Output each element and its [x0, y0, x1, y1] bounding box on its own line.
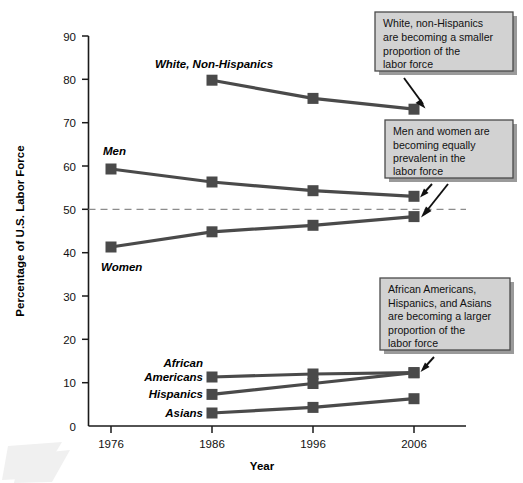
y-tick-80: 80: [63, 74, 76, 86]
series-white-non-hispanics: [207, 75, 420, 115]
annotation-line: labor force: [383, 58, 433, 70]
data-point: [207, 226, 218, 237]
y-axis-tick-labels: 90 80 70 60 50 40 30 20 10 0: [63, 31, 76, 433]
x-tick-1996: 1996: [300, 438, 326, 450]
annotation-line: becoming equally: [393, 139, 476, 151]
annotation-line: labor force: [388, 337, 438, 349]
annotation-line: Men and women are: [393, 125, 490, 137]
data-point: [409, 211, 420, 222]
y-tick-50: 50: [63, 204, 76, 216]
data-point: [409, 367, 420, 378]
series-label-women: Women: [101, 261, 142, 273]
y-axis: [82, 36, 89, 426]
data-point: [207, 372, 218, 383]
y-tick-90: 90: [63, 31, 76, 43]
data-point: [308, 93, 319, 104]
series-asians: [207, 393, 420, 418]
series-label-hispanics: Hispanics: [149, 388, 203, 400]
chart-figure: 90 80 70 60 50 40 30 20 10 0 1976 1986 1…: [0, 0, 523, 483]
y-tick-70: 70: [63, 117, 76, 129]
annotation-men-women-callout: Men and women are becoming equally preva…: [385, 120, 517, 218]
data-point: [207, 408, 218, 419]
annotation-line: are becoming a smaller: [383, 31, 494, 43]
data-point: [308, 185, 319, 196]
watermark: [2, 442, 70, 483]
series-women: [106, 211, 420, 252]
series-label-men: Men: [103, 145, 126, 157]
data-point: [409, 191, 420, 202]
data-point: [106, 164, 117, 175]
data-point: [308, 220, 319, 231]
y-tick-20: 20: [63, 334, 76, 346]
x-axis: [89, 426, 467, 433]
series-label-african-americans-line2: Americans: [143, 371, 203, 383]
y-axis-title: Percentage of U.S. Labor Force: [14, 145, 26, 316]
x-tick-2006: 2006: [401, 438, 427, 450]
series-men: [106, 164, 420, 202]
data-point: [207, 389, 218, 400]
y-tick-40: 40: [63, 247, 76, 259]
data-point: [207, 177, 218, 188]
series-label-white-non-hispanics: White, Non-Hispanics: [155, 58, 273, 70]
annotation-line: Hispanics, and Asians: [388, 297, 492, 309]
annotation-line: prevalent in the: [393, 152, 466, 164]
series-label-asians: Asians: [164, 407, 203, 419]
data-point: [207, 75, 218, 86]
series-label-african-americans-line1: African: [162, 357, 203, 369]
x-tick-1986: 1986: [199, 438, 225, 450]
y-tick-0: 0: [70, 421, 76, 433]
data-point: [409, 393, 420, 404]
x-tick-1976: 1976: [98, 438, 124, 450]
data-point: [308, 402, 319, 413]
annotation-white-callout: White, non-Hispanics are becoming a smal…: [375, 12, 517, 109]
data-point: [308, 369, 319, 380]
annotation-minorities-callout: African Americans, Hispanics, and Asians…: [380, 278, 514, 372]
annotation-line: are becoming a larger: [388, 310, 492, 322]
annotation-line: labor force: [393, 165, 443, 177]
data-point: [308, 378, 319, 389]
y-tick-30: 30: [63, 291, 76, 303]
annotation-line: proportion of the: [388, 324, 465, 336]
x-axis-tick-labels: 1976 1986 1996 2006: [98, 438, 427, 450]
data-point: [106, 242, 117, 253]
x-axis-title: Year: [250, 460, 275, 472]
y-tick-60: 60: [63, 161, 76, 173]
data-point: [409, 104, 420, 115]
y-tick-10: 10: [63, 377, 76, 389]
annotation-line: African Americans,: [388, 283, 476, 295]
annotation-line: proportion of the: [383, 45, 460, 57]
annotation-line: White, non-Hispanics: [383, 17, 483, 29]
